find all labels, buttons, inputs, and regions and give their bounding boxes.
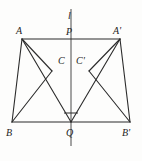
label-point-A-prime: A' [113, 26, 121, 36]
label-point-C: C [58, 56, 65, 66]
label-point-Q: Q [66, 128, 73, 138]
label-point-A: A [16, 26, 22, 36]
label-point-C-prime: C' [76, 56, 85, 66]
segment-A-C [22, 39, 52, 71]
segment-A-B [12, 39, 22, 122]
segment-Aprime-Q [71, 39, 120, 122]
segment-Cprime-Bprime [89, 71, 130, 122]
label-point-P: P [66, 27, 72, 37]
label-point-B-prime: B' [122, 128, 130, 138]
label-point-B: B [6, 128, 12, 138]
geometry-figure: A A' B B' C C' P Q l [0, 0, 142, 161]
segment-A-Q [22, 39, 71, 122]
segment-C-B [12, 71, 52, 122]
label-line-l: l [68, 11, 71, 21]
segment-Aprime-Bprime [120, 39, 130, 122]
